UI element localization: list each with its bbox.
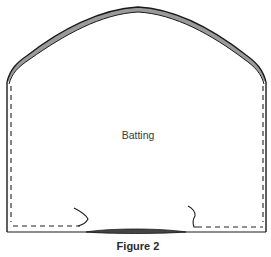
batting-diagram: Batting Figure 2	[0, 0, 271, 257]
bottom-lens-fill	[86, 229, 186, 234]
batting-label: Batting	[122, 129, 155, 141]
top-arch-inner-line	[9, 12, 264, 84]
figure-caption: Figure 2	[117, 240, 160, 252]
top-arch-fill	[7, 7, 266, 82]
right-thread-squiggle	[188, 206, 197, 227]
left-thread-squiggle	[74, 208, 88, 226]
